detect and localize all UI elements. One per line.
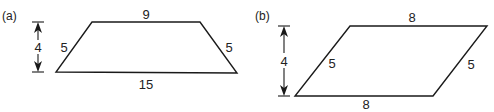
figure-b-label: (b) <box>255 9 270 23</box>
figure-b-height-dimension: 4 <box>278 26 290 96</box>
side-top-label-b: 8 <box>408 10 415 25</box>
side-left-label-a: 5 <box>60 40 67 55</box>
side-left-label-b: 5 <box>328 56 335 71</box>
height-label-b: 4 <box>280 54 287 69</box>
figure-a-label: (a) <box>2 9 17 23</box>
side-bottom-label-b: 8 <box>362 97 369 112</box>
parallelogram-shape <box>295 26 487 96</box>
height-label-a: 4 <box>34 40 41 55</box>
figure-a-trapezoid: (a) 4 9 5 5 15 <box>2 7 237 92</box>
figure-a-height-dimension: 4 <box>32 22 44 72</box>
side-right-label-a: 5 <box>225 40 232 55</box>
diagram-canvas: (a) 4 9 5 5 15 (b) 4 8 5 5 <box>0 0 494 112</box>
trapezoid-shape <box>56 22 237 73</box>
side-right-label-b: 5 <box>467 57 474 72</box>
figure-b-parallelogram: (b) 4 8 5 5 8 <box>255 9 487 112</box>
side-bottom-label-a: 15 <box>139 77 153 92</box>
side-top-label-a: 9 <box>142 7 149 22</box>
